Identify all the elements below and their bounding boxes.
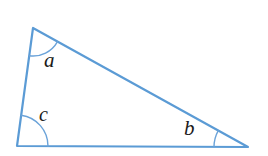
angle-label-c: c: [39, 104, 48, 124]
angle-label-a: a: [44, 50, 55, 71]
geometry-figure: a c b: [0, 0, 268, 156]
angle-arc-b: [214, 131, 218, 147]
triangle-outline: [17, 28, 248, 147]
triangle-diagram-svg: [0, 0, 268, 156]
angle-label-b: b: [184, 118, 195, 139]
